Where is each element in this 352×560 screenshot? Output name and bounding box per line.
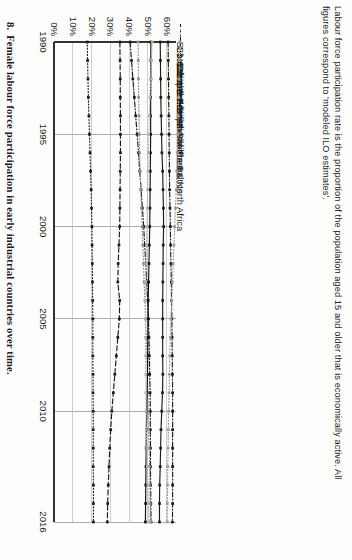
y-axis-tick-label: 0% xyxy=(49,8,60,36)
x-axis-tick-label: 2010 xyxy=(38,399,49,423)
chart-series xyxy=(86,41,95,524)
x-axis-tick-label: 1995 xyxy=(38,122,49,146)
chart-svg xyxy=(0,0,352,560)
chart-plot-area: 1990199520002005201020160%10%20%30%40%50… xyxy=(0,0,352,560)
chart-series xyxy=(166,41,181,524)
figure-caption: 8.Female labour force participation in e… xyxy=(5,22,16,375)
y-axis-tick-label: 40% xyxy=(124,8,135,36)
chart-series xyxy=(106,41,122,524)
figure-page: Labour force participation rate is the p… xyxy=(0,0,352,560)
y-axis-tick-label: 60% xyxy=(162,8,173,36)
y-axis-tick-label: 10% xyxy=(68,8,79,36)
y-axis-tick-label: 50% xyxy=(143,8,154,36)
x-axis-tick-label: 2016 xyxy=(38,510,49,534)
y-axis-tick-label: 30% xyxy=(105,8,116,36)
x-axis-tick-label: 2000 xyxy=(38,215,49,239)
chart-series xyxy=(158,41,165,524)
x-axis-tick-label: 1990 xyxy=(38,30,49,54)
y-axis-tick-label: 20% xyxy=(87,8,98,36)
caption-text: Female labour force participation in ear… xyxy=(5,35,16,374)
chart-axes xyxy=(54,42,176,522)
caption-number: 8. xyxy=(5,22,16,30)
x-axis-tick-label: 2005 xyxy=(38,307,49,331)
chart-gridlines xyxy=(54,42,176,522)
